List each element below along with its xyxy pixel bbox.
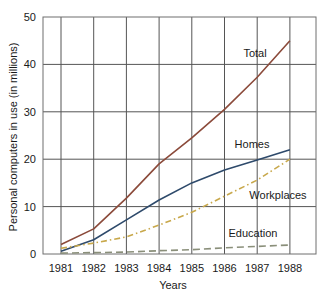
grid-lines: [43, 17, 316, 254]
plot-frame: [43, 17, 316, 254]
x-tick-label: 1982: [81, 262, 105, 274]
x-tick-label: 1988: [278, 262, 302, 274]
y-tick-label: 10: [24, 201, 36, 213]
x-tick-label: 1981: [49, 262, 73, 274]
line-chart: 01020304050 1981198219831984198519861987…: [0, 0, 323, 297]
x-tick-label: 1986: [212, 262, 236, 274]
series-labels: TotalHomesWorkplacesEducation: [229, 47, 308, 239]
series-label-total: Total: [243, 47, 266, 59]
x-tick-label: 1985: [180, 262, 204, 274]
series-label-homes: Homes: [235, 138, 270, 150]
y-tick-label: 30: [24, 106, 36, 118]
x-tick-label: 1987: [245, 262, 269, 274]
series-label-workplaces: Workplaces: [249, 189, 307, 201]
x-axis-ticks: 19811982198319841985198619871988: [49, 262, 302, 274]
y-tick-label: 20: [24, 153, 36, 165]
series-line-education: [61, 245, 290, 253]
y-tick-label: 50: [24, 11, 36, 23]
y-axis-label: Personal computers in use (in millions): [7, 43, 19, 232]
x-axis-label: Years: [159, 279, 187, 291]
y-tick-label: 0: [30, 248, 36, 260]
x-tick-label: 1984: [147, 262, 171, 274]
y-tick-label: 40: [24, 58, 36, 70]
series-label-education: Education: [229, 227, 278, 239]
x-tick-label: 1983: [114, 262, 138, 274]
y-axis-ticks: 01020304050: [24, 11, 36, 260]
